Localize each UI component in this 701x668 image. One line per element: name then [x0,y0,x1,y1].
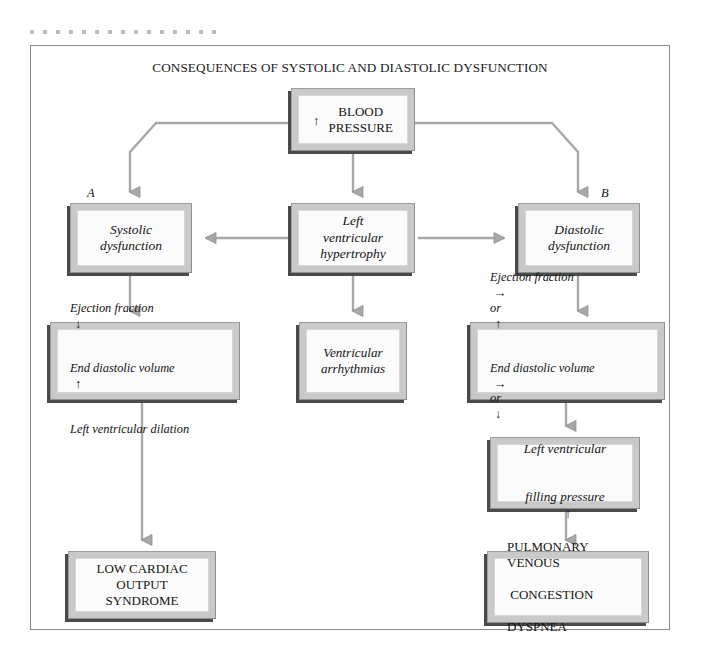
node-systolic-consequences[interactable]: Ejection fraction ↓ End diastolic volume… [50,322,240,400]
node-pulmonary-venous-congestion[interactable]: PULMONARY VENOUS CONGESTION DYSPNEA [487,551,649,623]
dot [199,30,203,34]
up-arrow-icon: ↑ [495,317,501,332]
dot [121,30,125,34]
dot [173,30,177,34]
dot [82,30,86,34]
node-low-cardiac-output-syndrome-inner: LOW CARDIAC OUTPUT SYNDROME [75,558,209,612]
branch-label-a: A [87,186,95,201]
diastolic-detail-row-2-or: or [490,391,501,405]
figure-title: CONSEQUENCES OF SYSTOLIC AND DIASTOLIC D… [31,60,669,76]
node-blood-pressure-label: BLOOD PRESSURE [329,104,393,136]
filling-pressure-row-1: Left ventricular [524,425,606,457]
dot [43,30,47,34]
dot [56,30,60,34]
pulmonary-line-2: CONGESTION [507,587,641,603]
node-lv-filling-pressure[interactable]: Left ventricular filling pressure ↑ [490,437,640,509]
node-pulmonary-venous-congestion-inner: PULMONARY VENOUS CONGESTION DYSPNEA [494,558,642,616]
node-ventricular-arrhythmias-inner: Ventricular arrhythmias [306,329,400,393]
diastolic-detail-row-1-or: or [490,301,501,315]
node-ventricular-arrhythmias[interactable]: Ventricular arrhythmias [299,322,407,400]
dot [95,30,99,34]
down-arrow-icon: ↓ [495,407,501,422]
node-systolic-dysfunction[interactable]: Systolic dysfunction [70,203,192,273]
dot [30,30,34,34]
decorative-dot-rule [30,30,216,34]
dot [108,30,112,34]
up-arrow-icon: ↑ [565,506,572,522]
up-arrow-icon: ↑ [313,113,320,129]
node-left-ventricular-hypertrophy-inner: Left ventricular hypertrophy [298,210,408,266]
dot [186,30,190,34]
node-diastolic-consequences[interactable]: Ejection fraction → or ↑ End diastolic v… [470,322,665,400]
dot [147,30,151,34]
node-ventricular-arrhythmias-label: Ventricular arrhythmias [321,345,385,377]
node-low-cardiac-output-syndrome-label: LOW CARDIAC OUTPUT SYNDROME [96,561,187,609]
filling-pressure-line-2: filling pressure [525,489,604,504]
node-left-ventricular-hypertrophy-label: Left ventricular hypertrophy [320,213,385,262]
systolic-detail-row-1-text: Ejection fraction [70,301,154,315]
systolic-detail-row-1: Ejection fraction ↓ [70,285,189,330]
systolic-detail-row-2: End diastolic volume ↑ [70,346,189,391]
pulmonary-line-3: DYSPNEA [507,619,641,635]
node-blood-pressure[interactable]: ↑ BLOOD PRESSURE [291,88,415,151]
right-arrow-icon: → [494,377,506,392]
node-blood-pressure-inner: ↑ BLOOD PRESSURE [298,95,408,144]
diastolic-detail-row-1: Ejection fraction → or ↑ [490,255,628,331]
pulmonary-line-1: PULMONARY VENOUS [507,539,641,571]
filling-pressure-row-2: filling pressure ↑ [524,473,606,521]
up-arrow-icon: ↑ [75,377,81,392]
diastolic-detail-row-2-text: End diastolic volume [490,361,595,375]
systolic-detail-row-2-text: End diastolic volume [70,361,175,375]
node-lv-filling-pressure-lines: Left ventricular filling pressure ↑ [524,409,606,538]
node-lv-filling-pressure-inner: Left ventricular filling pressure ↑ [497,444,633,502]
filling-pressure-line-1: Left ventricular [524,441,606,456]
down-arrow-icon: ↓ [75,317,81,332]
node-systolic-consequences-lines: Ejection fraction ↓ End diastolic volume… [70,270,189,452]
node-left-ventricular-hypertrophy[interactable]: Left ventricular hypertrophy [291,203,415,273]
dot [69,30,73,34]
diastolic-detail-row-1-text: Ejection fraction [490,270,574,284]
dot [160,30,164,34]
node-systolic-dysfunction-label: Systolic dysfunction [100,222,162,255]
dot [212,30,216,34]
dot [134,30,138,34]
systolic-detail-row-3-text: Left ventricular dilation [70,422,189,436]
right-arrow-icon: → [494,286,506,301]
node-systolic-consequences-inner: Ejection fraction ↓ End diastolic volume… [57,329,233,393]
node-low-cardiac-output-syndrome[interactable]: LOW CARDIAC OUTPUT SYNDROME [68,551,216,619]
node-diastolic-consequences-inner: Ejection fraction → or ↑ End diastolic v… [477,329,658,393]
node-pulmonary-venous-congestion-lines: PULMONARY VENOUS CONGESTION DYSPNEA [507,524,641,651]
systolic-detail-row-3: Left ventricular dilation [70,406,189,436]
node-systolic-dysfunction-inner: Systolic dysfunction [77,210,185,266]
branch-label-b: B [601,186,609,201]
